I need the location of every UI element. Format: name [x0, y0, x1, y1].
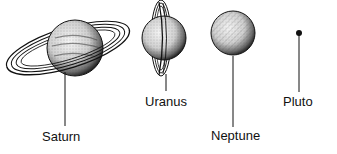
- pluto-label: Pluto: [283, 94, 313, 109]
- neptune-illustration: [211, 11, 255, 127]
- saturn-label: Saturn: [42, 129, 80, 144]
- uranus-illustration: [142, 0, 186, 91]
- neptune-label: Neptune: [211, 128, 260, 143]
- pluto-illustration: [296, 30, 302, 92]
- uranus-label: Uranus: [145, 94, 187, 109]
- saturn-illustration: [1, 10, 135, 126]
